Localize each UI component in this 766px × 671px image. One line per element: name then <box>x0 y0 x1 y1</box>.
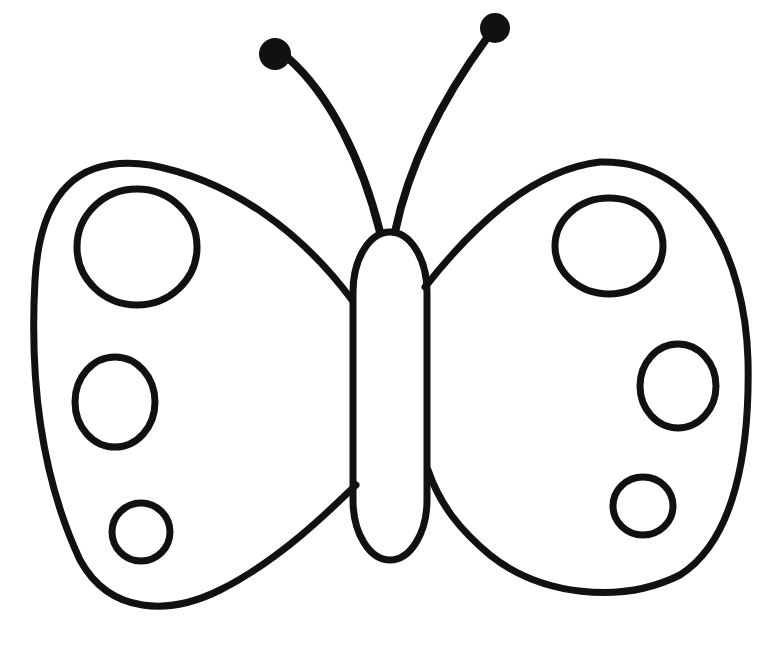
left-antenna <box>288 58 380 232</box>
left-antenna-tip <box>259 38 291 70</box>
right-spot-middle <box>640 344 716 428</box>
left-spot-bottom <box>112 503 170 561</box>
butterfly-body <box>353 232 427 560</box>
right-spot-top <box>555 198 663 294</box>
left-spot-top <box>77 189 197 305</box>
right-wing-spots <box>555 198 716 535</box>
right-antenna <box>395 38 487 232</box>
antennae <box>259 13 510 232</box>
left-spot-middle <box>75 357 155 447</box>
left-wing-spots <box>75 189 197 561</box>
right-spot-bottom <box>613 477 673 535</box>
right-antenna-tip <box>480 13 510 43</box>
right-wing <box>425 162 748 592</box>
butterfly-drawing <box>0 0 766 671</box>
